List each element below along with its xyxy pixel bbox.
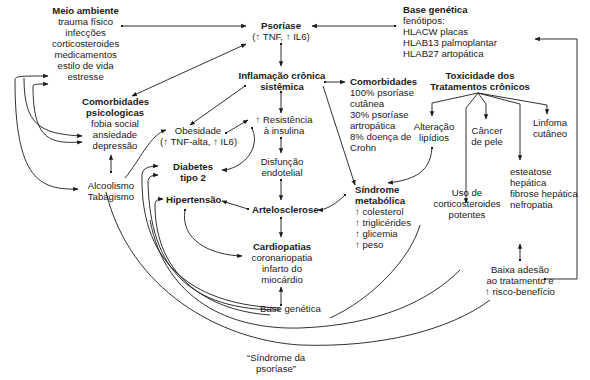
node-line: ao tratamento e (480, 275, 560, 286)
node-cancer-pele: Câncer de pele (470, 125, 504, 147)
node-line: Tabagismo (84, 191, 138, 202)
node-title: Hipertensão (166, 194, 221, 205)
node-line: lipídios (412, 132, 456, 143)
node-line: Baixa adesão (480, 264, 560, 275)
node-title: Síndrome (355, 184, 411, 195)
node-line: infecções (52, 27, 119, 38)
node-line: HLACW placas (403, 26, 497, 37)
node-baixa-adesao: Baixa adesão ao tratamento e ↑ risco-ben… (480, 264, 560, 297)
node-line: cutânea (350, 98, 417, 109)
node-line: miocárdio (250, 274, 314, 285)
node-line: Base genética (260, 303, 321, 314)
node-line: Obesidade (160, 125, 236, 136)
node-line: trauma físico (52, 16, 119, 27)
node-diabetes: Diabetes tipo 2 (168, 161, 218, 183)
node-title: Base genética (403, 4, 497, 15)
node-line: artropática (350, 120, 417, 131)
node-line: Alcoolismo (84, 180, 138, 191)
node-line: corticosteroides (52, 38, 119, 49)
node-title: Tratamentos crônicos (425, 81, 535, 92)
node-line: ansiedade (82, 129, 148, 140)
node-line: Linfoma (530, 117, 570, 128)
node-title: Artelosclerose (252, 204, 314, 215)
node-line: Crohn (350, 142, 417, 153)
node-title: Diabetes (168, 161, 218, 172)
node-title: psicologicas (82, 107, 148, 118)
node-disfuncao-endotelial: Disfunção endotelial (256, 156, 308, 178)
node-alcoolismo-tabagismo: Alcoolismo Tabagismo (84, 180, 138, 202)
node-line: infarto do (250, 263, 314, 274)
node-sindrome-metabolica: Síndrome metabólica ↑ colesterol ↑ trigl… (355, 184, 411, 250)
node-line: esteatose (510, 166, 578, 177)
node-line: de pele (470, 136, 504, 147)
node-line: ↑ risco-benefício (480, 286, 560, 297)
node-line: fobia social (82, 118, 148, 129)
node-uso-corticosteroides: Uso de corticosteroides potentes (431, 187, 503, 220)
node-hipertensao: Hipertensão (166, 194, 221, 205)
node-line: fenótipos: (403, 15, 497, 26)
node-line: cutâneo (530, 128, 570, 139)
node-title: Inflamação crônica (236, 70, 328, 81)
node-title: tipo 2 (168, 172, 218, 183)
node-title: Comorbidades (82, 96, 148, 107)
node-base-genetica-bottom: Base genética (260, 303, 321, 314)
node-line: nefropatia (510, 199, 578, 210)
node-obesidade: Obesidade (↑ TNF-alta, ↑ IL6) (160, 125, 236, 147)
node-line: fibrose hepática (510, 188, 578, 199)
node-psoriase: Psoríase (↑ TNF, ↑ IL6) (252, 20, 310, 42)
node-line: ↑ Resistência (254, 114, 314, 125)
node-line: hepática (510, 177, 578, 188)
node-line: coronariopatia (250, 252, 314, 263)
node-line: ↑ colesterol (355, 206, 411, 217)
node-line: psoríase” (244, 363, 308, 374)
node-line: 100% psoríase (350, 87, 417, 98)
node-line: estresse (52, 71, 119, 82)
node-line: ↑ peso (355, 239, 411, 250)
node-cardiopatias: Cardiopatias coronariopatia infarto do m… (250, 241, 314, 285)
node-title: Comorbidades (350, 76, 417, 87)
node-title: metabólica (355, 195, 411, 206)
node-line: 30% psoríase (350, 109, 417, 120)
node-line: (↑ TNF-alta, ↑ IL6) (160, 136, 236, 147)
node-line: medicamentos (52, 49, 119, 60)
node-line: à insulina (254, 125, 314, 136)
node-line: potentes (431, 209, 503, 220)
node-esteatose: esteatose hepática fibrose hepática nefr… (510, 166, 578, 210)
node-line: (↑ TNF, ↑ IL6) (252, 31, 310, 42)
node-toxicidade: Toxicidade dos Tratamentos crônicos (425, 70, 535, 92)
node-line: Uso de (431, 187, 503, 198)
node-line: ↑ triglicérides (355, 217, 411, 228)
node-comorbidades: Comorbidades 100% psoríase cutânea 30% p… (350, 76, 417, 153)
node-base-genetica-top: Base genética fenótipos: HLACW placas HL… (403, 4, 497, 59)
node-line: ↑ glicemia (355, 228, 411, 239)
label-sindrome-da-psoriase: “Síndrome da psoríase” (244, 352, 308, 374)
node-title: Cardiopatias (250, 241, 314, 252)
node-line: endotelial (256, 167, 308, 178)
node-line: Alteração (412, 121, 456, 132)
node-comorbidades-psicologicas: Comorbidades psicologicas fobia social a… (82, 96, 148, 151)
node-inflamacao: Inflamação crônica sistêmica (236, 70, 328, 92)
node-line: 8% doença de (350, 131, 417, 142)
node-line: Disfunção (256, 156, 308, 167)
node-line: corticosteroides (431, 198, 503, 209)
node-linfoma-cutaneo: Linfoma cutâneo (530, 117, 570, 139)
node-line: HLAB13 palmoplantar (403, 37, 497, 48)
node-meio-ambiente: Meio ambiente trauma físico infecções co… (52, 5, 119, 82)
node-line: depressão (82, 140, 148, 151)
node-title: Meio ambiente (52, 5, 119, 16)
node-title: Psoríase (252, 20, 310, 31)
node-arteriosclerose: Artelosclerose (252, 204, 314, 215)
node-line: HLAB27 artopática (403, 48, 497, 59)
node-line: estilo de vida (52, 60, 119, 71)
node-title: Toxicidade dos (425, 70, 535, 81)
node-line: Câncer (470, 125, 504, 136)
node-title: sistêmica (236, 81, 328, 92)
node-resistencia-insulina: ↑ Resistência à insulina (254, 114, 314, 136)
node-alteracao-lipidios: Alteração lipídios (412, 121, 456, 143)
node-line: “Síndrome da (244, 352, 308, 363)
